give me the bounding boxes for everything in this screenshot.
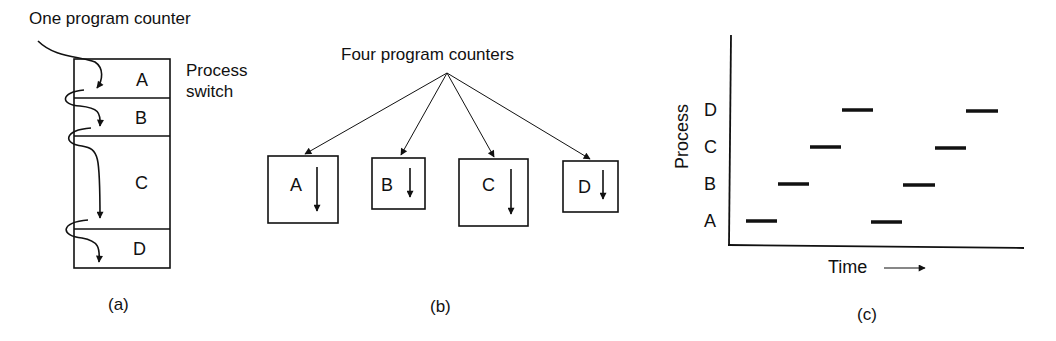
panel-c-axes [728,35,1024,248]
panel-a-process-switch-label-line1: Process [186,62,247,79]
panel-b-box-c-label: C [482,176,495,194]
panel-b-box-d-label: D [578,178,591,196]
panel-a-segment-b: B [135,109,147,127]
panel-b-box-b [372,158,425,209]
panel-b-box-a-label: A [290,176,302,194]
panel-a-caption: (a) [108,296,129,313]
panel-b-box-a [268,156,338,223]
panel-a-title: One program counter [29,10,191,27]
panel-a-segment-c: C [135,174,148,192]
panel-a-memory-box [74,59,170,268]
panel-b-box-b-label: B [381,176,393,194]
panel-b-fan-arrows [305,73,590,159]
panel-c-timeline-bars [746,110,998,222]
panel-c-row-c: C [704,138,717,156]
panel-b-counter-arrows [317,167,603,214]
panel-b-title: Four program counters [341,46,514,63]
panel-b-process-boxes [268,156,618,226]
panel-a-segment-d: D [133,240,146,258]
panel-c-row-b: B [704,175,716,193]
panel-c-row-d: D [704,101,717,119]
panel-c-row-a: A [704,212,716,230]
diagram-graphics [0,0,1056,341]
panel-b-caption: (b) [430,298,451,315]
panel-a-process-switch-label-line2: switch [186,83,233,100]
panel-c-xlabel: Time [828,258,867,276]
panel-a-segment-a: A [136,71,148,89]
panel-c-ylabel: Process [673,109,691,169]
figure-canvas: One program counter A B C D Process swit… [0,0,1056,341]
panel-c-caption: (c) [857,306,877,323]
